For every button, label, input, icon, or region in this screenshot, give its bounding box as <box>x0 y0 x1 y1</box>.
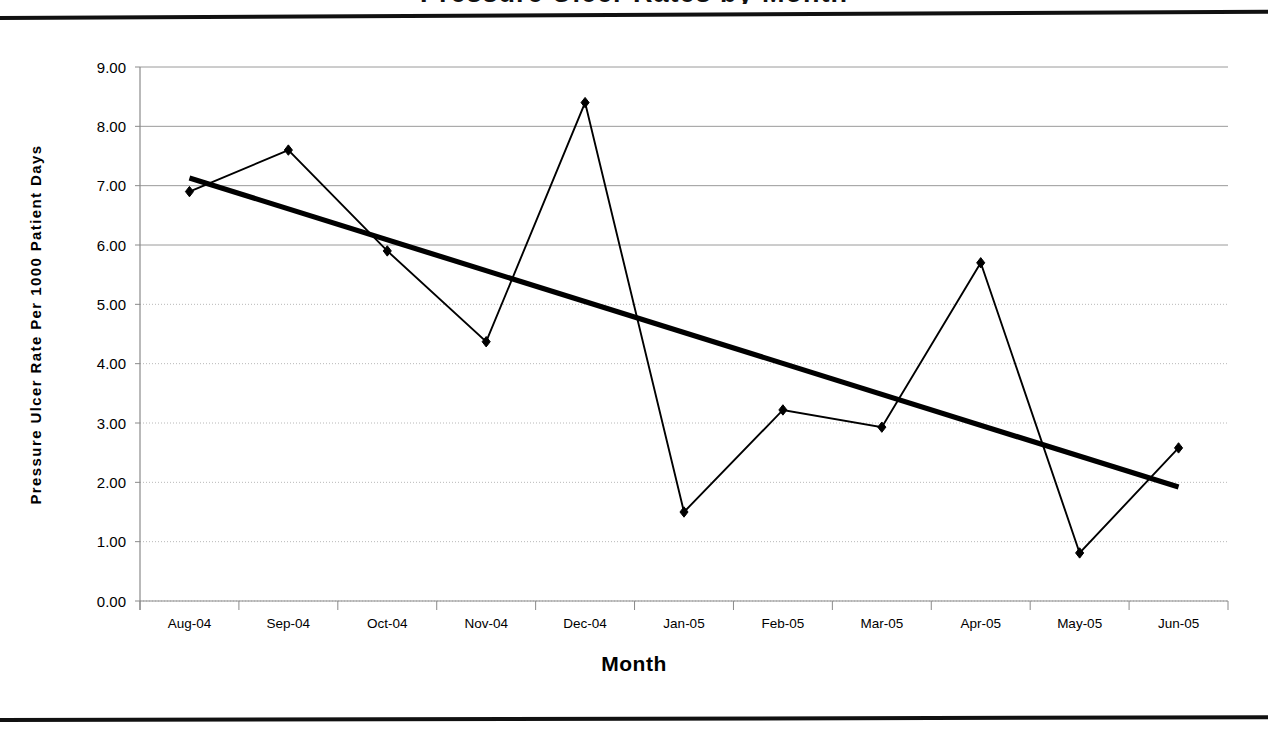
y-tick-label: 0.00 <box>97 593 126 610</box>
line-chart-plot: 9.008.007.006.005.004.003.002.001.000.00… <box>0 24 1268 664</box>
x-tick-label: Mar-05 <box>860 616 903 631</box>
x-tick-label: Aug-04 <box>168 616 212 631</box>
bottom-horizontal-rule <box>0 715 1268 722</box>
x-tick-label: Apr-05 <box>960 616 1001 631</box>
y-tick-labels-group: 9.008.007.006.005.004.003.002.001.000.00 <box>97 59 126 610</box>
x-tick-label: Jun-05 <box>1158 616 1199 631</box>
chart-page: Pressure Ulcer Rates by Month Pressure U… <box>0 0 1268 740</box>
gridlines-group <box>140 67 1228 610</box>
y-tick-label: 7.00 <box>97 177 126 194</box>
x-tick-labels-group: Aug-04Sep-04Oct-04Nov-04Dec-04Jan-05Feb-… <box>168 616 1200 631</box>
x-axis-title: Month <box>0 652 1268 676</box>
x-tick-label: Dec-04 <box>563 616 607 631</box>
data-point-marker <box>185 186 193 196</box>
x-tick-label: Jan-05 <box>663 616 704 631</box>
x-tick-label: May-05 <box>1057 616 1102 631</box>
y-tick-label: 6.00 <box>97 237 126 254</box>
top-horizontal-rule <box>0 10 1268 20</box>
data-point-marker <box>581 97 589 107</box>
y-tick-label: 3.00 <box>97 415 126 432</box>
x-tick-label: Sep-04 <box>267 616 311 631</box>
data-series-group <box>189 103 1178 553</box>
y-tick-label: 9.00 <box>97 59 126 76</box>
x-tick-label: Nov-04 <box>464 616 508 631</box>
page-title-clipped: Pressure Ulcer Rates by Month <box>0 0 1268 4</box>
x-tick-label: Feb-05 <box>762 616 805 631</box>
y-tick-label: 8.00 <box>97 118 126 135</box>
trendline <box>189 178 1178 487</box>
y-tick-label: 4.00 <box>97 355 126 372</box>
y-tick-label: 1.00 <box>97 533 126 550</box>
chart-container: Pressure Ulcer Rate Per 1000 Patient Day… <box>0 24 1268 714</box>
data-line <box>189 103 1178 553</box>
x-tick-label: Oct-04 <box>367 616 408 631</box>
y-tick-label: 2.00 <box>97 474 126 491</box>
data-markers-group <box>185 97 1182 558</box>
trendline-group <box>189 178 1178 487</box>
axes-group <box>135 67 1228 610</box>
y-tick-label: 5.00 <box>97 296 126 313</box>
